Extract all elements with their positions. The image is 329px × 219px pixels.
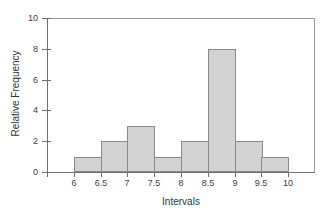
x-axis-tick — [127, 172, 128, 177]
histogram-bar — [235, 141, 263, 172]
x-axis-tick-label: 9.5 — [246, 179, 276, 188]
plot-frame-right-border — [314, 18, 315, 172]
x-axis-tick — [181, 172, 182, 177]
x-axis-tick — [154, 172, 155, 177]
y-axis-line — [47, 18, 48, 173]
x-axis-tick-label: 8.5 — [193, 179, 223, 188]
histogram-bar — [127, 126, 155, 172]
histogram-bar — [74, 157, 102, 172]
x-axis-origin-tick — [47, 172, 48, 177]
x-axis-tick — [288, 172, 289, 177]
histogram-bar — [181, 141, 209, 172]
histogram-bar — [261, 157, 289, 172]
x-axis-title: Intervals — [47, 196, 315, 207]
y-axis-tick — [42, 141, 51, 142]
histogram-bar — [208, 49, 236, 172]
x-axis-tick — [101, 172, 102, 177]
x-axis-tick-label: 10 — [273, 179, 303, 188]
x-axis-tick-label: 7.5 — [139, 179, 169, 188]
x-axis-tick — [235, 172, 236, 177]
x-axis-tick — [74, 172, 75, 177]
histogram-bar — [101, 141, 129, 172]
histogram-bar — [154, 157, 182, 172]
x-axis-tick-label: 7 — [112, 179, 142, 188]
x-axis-tick — [208, 172, 209, 177]
y-axis-tick — [42, 110, 51, 111]
histogram-chart: 0246810 66.577.588.599.510 Intervals Rel… — [0, 0, 329, 219]
y-axis-tick — [42, 49, 51, 50]
y-axis-title: Relative Frequency — [10, 17, 21, 171]
y-axis-tick — [42, 80, 51, 81]
y-axis-tick — [42, 18, 51, 19]
x-axis-tick-label: 6 — [59, 179, 89, 188]
x-axis-tick — [261, 172, 262, 177]
x-axis-tick-label: 8 — [166, 179, 196, 188]
plot-frame-top-border — [47, 18, 315, 19]
